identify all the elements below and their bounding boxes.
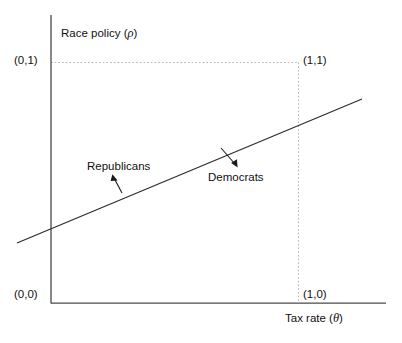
- democrats-arrow-icon: [221, 148, 238, 168]
- corner-label-top-right: (1,1): [303, 55, 327, 67]
- republicans-arrow-icon: [111, 174, 122, 193]
- annotation-democrats: Democrats: [208, 172, 264, 184]
- figure-root: Race policy (ρ) Tax rate (θ) (0,1) (1,1)…: [0, 0, 402, 343]
- x-axis-label-close: ): [339, 312, 343, 324]
- policy-cut-line: [17, 99, 362, 243]
- y-axis-label-text: Race policy (: [61, 27, 127, 39]
- chart-canvas: [0, 0, 402, 343]
- x-axis-label: Tax rate (θ): [285, 312, 343, 325]
- y-axis-label-close: ): [133, 27, 137, 39]
- corner-label-top-left: (0,1): [14, 55, 38, 67]
- x-axis-label-text: Tax rate (: [285, 312, 333, 324]
- corner-label-bottom-right: (1,0): [303, 289, 327, 301]
- annotation-republicans: Republicans: [87, 161, 150, 173]
- corner-label-origin: (0,0): [14, 289, 38, 301]
- y-axis-label: Race policy (ρ): [61, 27, 137, 40]
